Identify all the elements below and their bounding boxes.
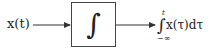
integral-icon: ∫ — [72, 7, 115, 43]
output-expression: t ∫ x(τ)dτ −∞ — [157, 6, 211, 50]
integral-sign-icon: ∫ — [157, 15, 166, 35]
integrand: x(τ)dτ — [166, 18, 203, 32]
integrator-block: ∫ — [71, 2, 116, 47]
lower-limit: −∞ — [157, 34, 170, 43]
input-signal-label: x(t) — [7, 16, 30, 32]
